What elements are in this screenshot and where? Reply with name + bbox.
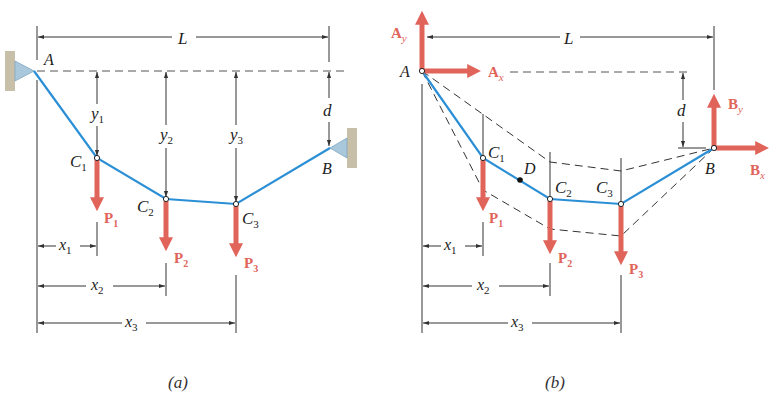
joint-c2: [163, 196, 168, 201]
cable: [422, 71, 714, 204]
label-ay: Ay: [391, 25, 407, 44]
svg-text:d: d: [677, 101, 686, 120]
svg-text:y3: y3: [228, 125, 244, 146]
cable: [34, 71, 330, 204]
joint-b: [711, 145, 716, 150]
dimension-y1: y1: [89, 72, 104, 156]
joint-c2: [547, 196, 552, 201]
label-p3: P3: [244, 255, 258, 274]
label-p2: P2: [174, 250, 188, 269]
joint-c1: [94, 155, 99, 160]
label-d: D: [523, 160, 536, 177]
label-by: By: [728, 96, 743, 115]
joint-c3: [618, 201, 623, 206]
pin-support-a: [15, 61, 34, 81]
svg-text:x3: x3: [124, 313, 138, 333]
label-b: B: [705, 160, 715, 177]
cable-figure: L A y1 y2 y3 d: [0, 0, 778, 404]
dimension-y3: y3: [228, 72, 244, 202]
label-c1: C1: [70, 152, 87, 173]
point-d: [517, 177, 523, 183]
dimension-d: d: [677, 73, 706, 148]
label-l: L: [563, 29, 573, 48]
label-b: B: [322, 160, 332, 177]
dimension-x1: x1: [423, 236, 482, 256]
label-a: A: [399, 63, 410, 80]
panel-b: L d: [391, 22, 765, 392]
joint-a: [419, 68, 424, 73]
label-p1: P1: [104, 210, 118, 229]
caption-b: (b): [545, 373, 565, 392]
dimension-y2: y2: [158, 72, 173, 197]
svg-text:x2: x2: [476, 276, 490, 296]
svg-text:x3: x3: [510, 313, 524, 333]
label-c2: C2: [555, 178, 572, 199]
svg-text:d: d: [323, 101, 332, 120]
joint-c1: [480, 155, 485, 160]
label-c3: C3: [242, 209, 259, 230]
label-c2: C2: [137, 197, 154, 218]
label-p2: P2: [558, 250, 572, 269]
dimension-d: d: [323, 72, 332, 146]
svg-text:y2: y2: [158, 125, 173, 146]
dimension-x3: x3: [38, 313, 235, 333]
label-bx: Bx: [750, 162, 765, 181]
joint-c3: [233, 201, 238, 206]
label-p1: P1: [489, 210, 503, 229]
wall-support-b: [347, 128, 357, 168]
svg-text:x1: x1: [443, 236, 457, 256]
pin-support-b: [330, 138, 347, 158]
dimension-x2: x2: [423, 276, 549, 296]
svg-text:x2: x2: [90, 276, 104, 296]
svg-text:y1: y1: [89, 104, 104, 125]
dimension-x1: x1: [38, 236, 96, 256]
svg-text:x1: x1: [58, 236, 72, 256]
label-l: L: [177, 29, 187, 48]
wall-support-a: [5, 51, 15, 91]
label-c1: C1: [488, 143, 505, 164]
caption-a: (a): [168, 373, 188, 392]
alt-cable-lower-dashed: [422, 71, 714, 236]
label-ax: Ax: [488, 64, 504, 83]
label-p3: P3: [629, 261, 643, 280]
dimension-x2: x2: [38, 276, 165, 296]
label-a: A: [43, 51, 54, 68]
label-c3: C3: [596, 178, 613, 199]
dimension-x3: x3: [423, 313, 620, 333]
panel-a: L A y1 y2 y3 d: [5, 26, 357, 392]
